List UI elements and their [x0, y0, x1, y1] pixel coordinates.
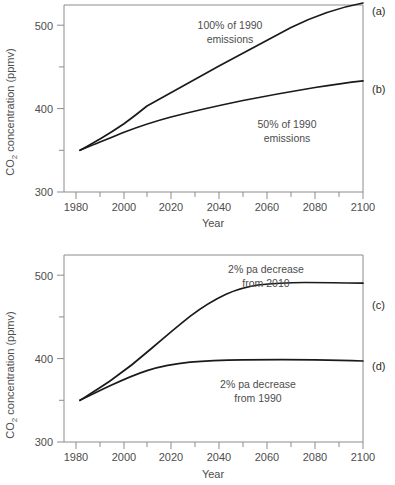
x-tick-label-2080-top: 2080 — [303, 201, 327, 213]
x-tick-label-2080-bottom: 2080 — [303, 451, 327, 463]
x-tick-label-2040-top: 2040 — [207, 201, 231, 213]
x-tick-label-2040-bottom: 2040 — [207, 451, 231, 463]
x-tick-label-2100-bottom: 2100 — [351, 451, 375, 463]
y-axis-title-bottom: CO2 concentration (ppmv) — [4, 311, 19, 438]
annotation-a-line1: 100% of 1990 — [198, 19, 263, 31]
y-tick-label-400-bottom: 400 — [35, 353, 53, 365]
series-label-a: (a) — [372, 5, 385, 17]
series-curve-b — [80, 81, 363, 151]
chart-bottom-svg: CO2 concentration (ppmv) 500 400 300 — [0, 240, 395, 485]
figure-page: CO2 concentration (ppmv) 500 400 300 — [0, 0, 395, 485]
series-label-c: (c) — [372, 299, 385, 311]
x-tick-label-1980-top: 1980 — [64, 201, 88, 213]
x-tick-label-2000-top: 2000 — [112, 201, 136, 213]
chart-panel-top: CO2 concentration (ppmv) 500 400 300 — [0, 0, 395, 240]
annotation-d-line1: 2% pa decrease — [220, 378, 296, 390]
y-axis-title-top: CO2 concentration (ppmv) — [4, 48, 19, 175]
annotation-b-line2: emissions — [264, 132, 311, 144]
x-axis-title-bottom: Year — [202, 468, 225, 480]
x-tick-label-2000-bottom: 2000 — [112, 451, 136, 463]
x-tick-label-2100-top: 2100 — [351, 201, 375, 213]
series-label-b: (b) — [372, 83, 385, 95]
annotation-a-line2: emissions — [207, 33, 254, 45]
y-tick-label-300-bottom: 300 — [35, 436, 53, 448]
x-tick-label-2020-top: 2020 — [159, 201, 183, 213]
annotation-c-line2: from 2010 — [242, 277, 289, 289]
y-tick-label-400-top: 400 — [35, 103, 53, 115]
x-tick-label-2020-bottom: 2020 — [159, 451, 183, 463]
series-label-d: (d) — [372, 360, 385, 372]
annotation-c-line1: 2% pa decrease — [228, 263, 304, 275]
annotation-b-line1: 50% of 1990 — [258, 118, 317, 130]
chart-top-svg: CO2 concentration (ppmv) 500 400 300 — [0, 0, 395, 240]
y-tick-label-500-bottom: 500 — [35, 270, 53, 282]
x-axis-title-top: Year — [202, 217, 225, 229]
y-tick-label-500-top: 500 — [35, 20, 53, 32]
x-tick-label-1980-bottom: 1980 — [64, 451, 88, 463]
annotation-d-line2: from 1990 — [234, 392, 281, 404]
x-tick-label-2060-bottom: 2060 — [255, 451, 279, 463]
y-tick-label-300-top: 300 — [35, 186, 53, 198]
chart-panel-bottom: CO2 concentration (ppmv) 500 400 300 — [0, 240, 395, 485]
x-tick-label-2060-top: 2060 — [255, 201, 279, 213]
